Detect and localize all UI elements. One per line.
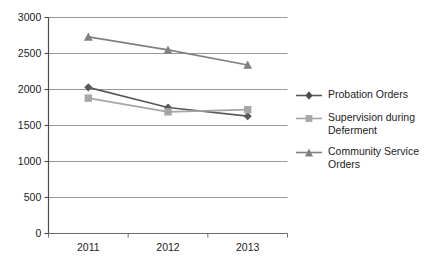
line-chart: 300025002000150010005000 201120122013 Pr…	[0, 0, 425, 261]
legend-marker-probation-orders	[296, 89, 322, 102]
y-axis-tick-label: 1000	[18, 155, 42, 167]
x-axis-tick-label: 2011	[58, 241, 118, 253]
data-point-marker	[164, 108, 171, 115]
legend-label: Probation Orders	[328, 88, 408, 101]
y-axis-tick-label: 0	[36, 227, 42, 239]
legend-marker-supervision-during-deferment	[296, 112, 322, 125]
y-axis-tick-label: 2500	[18, 47, 42, 59]
chart-legend: Probation Orders Supervision during Defe…	[296, 88, 424, 179]
data-point-marker	[85, 94, 92, 101]
legend-item: Probation Orders	[296, 88, 424, 102]
y-axis-tick-label: 1500	[18, 119, 42, 131]
legend-item: Community Service Orders	[296, 145, 424, 170]
legend-label: Community Service Orders	[328, 145, 419, 170]
y-axis-tick-label: 500	[24, 191, 42, 203]
legend-marker-community-service-orders	[296, 146, 322, 159]
y-axis-tick-label: 2000	[18, 83, 42, 95]
x-axis-tick-label: 2012	[138, 241, 198, 253]
y-axis-tick-label: 3000	[18, 11, 42, 23]
legend-item: Supervision during Deferment	[296, 111, 424, 136]
data-point-marker	[244, 106, 251, 113]
x-axis-tick-label: 2013	[218, 241, 278, 253]
data-point-marker	[84, 83, 92, 91]
legend-label: Supervision during Deferment	[328, 111, 415, 136]
data-series	[84, 33, 252, 121]
